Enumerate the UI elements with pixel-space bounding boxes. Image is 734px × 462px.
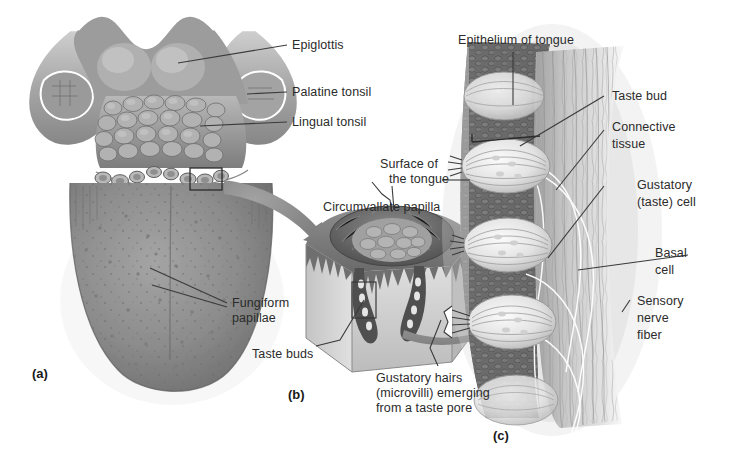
- papilla-cleft-right: [400, 266, 426, 341]
- label-basal-cell-line1: Basal: [655, 246, 687, 261]
- median-sulcus: [170, 186, 171, 360]
- leader-connective-tissue: [556, 130, 604, 190]
- leader-taste-buds: [316, 300, 364, 346]
- connective-tissue-column: [534, 46, 624, 428]
- gustatory-cells-3: [472, 306, 552, 342]
- label-circumvallate-papilla: Circumvallate papilla: [323, 200, 440, 215]
- papilla-trench: [330, 206, 454, 266]
- papilla-dome-cells: [360, 224, 425, 260]
- gustatory-hairs-3: [450, 310, 470, 333]
- panel-letter-c: (c): [493, 428, 509, 443]
- epithelium-drip-front: [352, 262, 452, 296]
- block-front: [352, 266, 452, 372]
- label-taste-bud: Taste bud: [612, 89, 667, 104]
- leader-fungiform-2: [152, 285, 227, 307]
- lingual-tonsil-nodules: [95, 95, 225, 162]
- leader-palatine-tonsil: [247, 92, 287, 94]
- gustatory-cells-1: [466, 150, 546, 186]
- inspection-box-a: [190, 168, 222, 190]
- arrow-b-to-c: [402, 302, 524, 345]
- epithelium-boundary-line: [472, 136, 540, 142]
- taste-bud-2: [450, 218, 552, 272]
- taste-pore-bracket: [444, 306, 452, 338]
- label-basal-cell-line2: cell: [655, 263, 674, 278]
- label-sensory-nerve-fiber-line2: nerve: [637, 311, 669, 326]
- label-surface-of-tongue-line2: the tongue: [389, 172, 449, 187]
- panel-letter-a: (a): [32, 366, 48, 381]
- lingual-tonsil-mass: [96, 96, 247, 168]
- panel-c-taste-buds: [442, 24, 662, 440]
- block-side-right: [452, 238, 476, 362]
- label-gustatory-hairs-line1: Gustatory hairs: [376, 371, 462, 386]
- circumvallate-papillae-row: [95, 167, 229, 188]
- taste-buds-in-cleft: [358, 277, 421, 330]
- arrow-a-to-b: [224, 180, 326, 246]
- label-connective-tissue-line1: Connective: [612, 120, 676, 135]
- papilla-cleft-left: [352, 268, 377, 343]
- cell-nuclei-1: [492, 156, 522, 179]
- label-sensory-nerve-fiber-line3: fiber: [637, 328, 662, 343]
- label-gustatory-cell-line2: (taste) cell: [637, 195, 696, 210]
- gustatory-hairs-2: [450, 235, 464, 255]
- fungiform-papillae-dots: [84, 214, 245, 367]
- label-lingual-tonsil: Lingual tonsil: [292, 115, 366, 130]
- epithelium-slab: [306, 207, 476, 272]
- epithelium-of-tongue-column: [460, 42, 550, 418]
- arch-outline: [78, 16, 214, 48]
- leader-gustatory-hairs: [430, 320, 441, 366]
- illustration-layer: [0, 0, 734, 462]
- leader-lingual-tonsil: [200, 122, 287, 126]
- epithelium-drip-right: [452, 238, 476, 282]
- epiglottis-lobe-right: [151, 43, 205, 91]
- epithelium-drip-left: [306, 244, 352, 280]
- inspection-box-b: [352, 282, 376, 318]
- tongue-body: [70, 183, 273, 391]
- gustatory-cells-2: [468, 229, 548, 265]
- panel-b-papilla-block: [306, 206, 476, 372]
- label-gustatory-hairs-line2: (microvilli) emerging: [376, 386, 490, 401]
- taste-bud-3: [444, 295, 556, 349]
- label-palatine-tonsil: Palatine tonsil: [292, 85, 371, 100]
- leader-fungiform-1: [150, 268, 227, 303]
- leader-epiglottis: [178, 45, 287, 63]
- connective-fiber-strands: [542, 44, 612, 428]
- epiglottis-lobe-left: [97, 43, 151, 91]
- sensory-nerve-fibers: [522, 165, 593, 436]
- label-epiglottis: Epiglottis: [292, 38, 344, 53]
- leader-taste-bud: [520, 96, 604, 146]
- palatine-tonsil-right: [233, 71, 285, 119]
- epiglottis-wing-left: [28, 30, 116, 146]
- epiglottis-wing-right: [210, 30, 298, 146]
- label-connective-tissue-line2: tissue: [612, 137, 645, 152]
- label-epithelium-of-tongue: Epithelium of tongue: [458, 33, 574, 48]
- sulcus-terminalis: [96, 170, 248, 187]
- panel-letter-b: (b): [288, 387, 305, 402]
- leader-gustatory-cell: [548, 186, 604, 258]
- label-fungiform-papillae-line1: Fungiform: [232, 296, 289, 311]
- taste-bud-1: [448, 139, 550, 193]
- label-gustatory-cell-line1: Gustatory: [637, 178, 692, 193]
- gustatory-hairs-1: [448, 156, 462, 176]
- label-sensory-nerve-fiber-line1: Sensory: [637, 294, 684, 309]
- taste-bud-0: [464, 72, 544, 120]
- label-surface-of-tongue-line1: Surface of: [380, 157, 438, 172]
- tonsil-crypt-left: [41, 71, 93, 119]
- figure-root: Epiglottis Palatine tonsil Lingual tonsi…: [0, 0, 734, 462]
- label-taste-buds: Taste buds: [252, 347, 313, 362]
- label-fungiform-papillae-line2: papillae: [232, 311, 276, 326]
- leader-sensory-nerve: [622, 300, 630, 312]
- papilla-dome: [352, 218, 432, 262]
- label-gustatory-hairs-line3: from a taste pore: [376, 401, 472, 416]
- pharyngeal-arch: [74, 16, 248, 104]
